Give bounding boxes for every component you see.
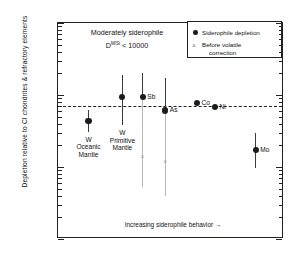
y-axis-major-tick [276, 95, 282, 96]
y-axis-minor-tick [58, 61, 62, 62]
data-label-ni: Ni [220, 103, 226, 110]
y-axis-minor-tick [279, 178, 283, 179]
y-axis-minor-tick [279, 61, 283, 62]
y-axis-minor-tick [279, 117, 283, 118]
annotation-d-superscript: M/Si [111, 41, 120, 46]
data-label-line: W [100, 129, 144, 137]
y-axis-minor-tick [279, 26, 283, 27]
y-axis-minor-tick [279, 111, 283, 112]
y-axis-minor-tick [279, 52, 283, 53]
y-axis-minor-tick [279, 196, 283, 197]
y-axis-minor-tick [58, 178, 62, 179]
y-axis-minor-tick [279, 102, 283, 103]
y-axis-minor-tick [58, 52, 62, 53]
data-label-co: Co [201, 99, 209, 106]
y-axis-minor-tick [58, 102, 62, 103]
data-point-ni[interactable] [212, 104, 218, 110]
y-axis-minor-tick [58, 183, 62, 184]
data-label-line: Mantle [100, 144, 144, 152]
data-label-line: Primitive [100, 137, 144, 145]
x-axis-caption-text: Increasing siderophile behavior → [125, 221, 222, 228]
y-axis-minor-tick [58, 196, 62, 197]
y-axis-minor-tick [58, 124, 62, 125]
data-point-mo[interactable] [253, 147, 259, 153]
y-axis-minor-tick [279, 39, 283, 40]
y-axis-minor-tick [58, 39, 62, 40]
y-axis-minor-tick [279, 124, 283, 125]
y-axis-minor-tick [279, 217, 283, 218]
annotation-line-2: DM/Si < 10000 [72, 38, 182, 51]
y-axis-major-tick [58, 167, 64, 168]
y-axis-minor-tick [279, 98, 283, 99]
y-axis-minor-tick [58, 133, 62, 134]
cross-marker-uncorrected[interactable]: × [163, 159, 167, 166]
y-axis-minor-tick [279, 189, 283, 190]
data-point-sb[interactable] [140, 94, 146, 100]
y-axis-minor-tick [279, 174, 283, 175]
annotation-d-value: < 10000 [120, 41, 148, 50]
y-axis-minor-tick [58, 45, 62, 46]
y-axis-minor-tick [279, 73, 283, 74]
y-axis-minor-tick [58, 98, 62, 99]
plot-area: Moderately siderophile DM/Si < 10000 Sid… [57, 22, 283, 238]
y-axis-minor-tick [58, 117, 62, 118]
y-axis-title: Depletion relative to CI chondrites & re… [21, 0, 28, 222]
legend: Siderophile depletion × Before volatile … [187, 21, 282, 58]
y-axis-minor-tick [58, 30, 62, 31]
y-axis-minor-tick [58, 111, 62, 112]
legend-label-siderophile-depletion: Siderophile depletion [202, 29, 260, 37]
y-axis-minor-tick [279, 34, 283, 35]
y-axis-major-tick [276, 239, 282, 240]
error-bar [122, 75, 123, 125]
y-axis-minor-tick [58, 174, 62, 175]
data-point-co[interactable] [194, 100, 200, 106]
legend-marker-filled-circle [193, 30, 198, 35]
y-axis-major-tick [58, 239, 64, 240]
y-axis-major-tick [276, 23, 282, 24]
y-axis-major-tick [58, 23, 64, 24]
y-axis-minor-tick [279, 30, 283, 31]
y-axis-minor-tick [279, 106, 283, 107]
y-axis-major-tick [276, 167, 282, 168]
y-axis-minor-tick [58, 205, 62, 206]
chart-annotation-title: Moderately siderophile DM/Si < 10000 [72, 27, 182, 51]
y-axis-minor-tick [58, 26, 62, 27]
error-bar-upper [165, 78, 166, 111]
y-axis-minor-tick [58, 106, 62, 107]
y-axis-minor-tick [279, 145, 283, 146]
data-point-as[interactable] [162, 107, 168, 113]
y-axis-minor-tick [58, 189, 62, 190]
y-axis-minor-tick [279, 183, 283, 184]
figure: Depletion relative to CI chondrites & re… [0, 0, 293, 262]
y-axis-minor-tick [58, 73, 62, 74]
y-axis-minor-tick [58, 34, 62, 35]
legend-label-before-volatile-correction-line2: correction [209, 49, 236, 57]
cross-marker-uncorrected[interactable]: × [141, 154, 145, 161]
data-point-w[interactable] [85, 118, 91, 124]
y-axis-minor-tick [58, 217, 62, 218]
data-point-w[interactable] [119, 94, 125, 100]
data-label-mo: Mo [260, 146, 269, 153]
y-axis-minor-tick [58, 145, 62, 146]
data-label-sb: Sb [147, 93, 155, 100]
y-axis-minor-tick [279, 170, 283, 171]
y-axis-minor-tick [58, 170, 62, 171]
y-axis-minor-tick [279, 205, 283, 206]
annotation-line-1: Moderately siderophile [72, 27, 182, 38]
y-axis-minor-tick [279, 133, 283, 134]
y-axis-major-tick [58, 95, 64, 96]
x-axis-caption: Increasing siderophile behavior → [118, 221, 228, 229]
y-axis-minor-tick [279, 45, 283, 46]
data-label-as: As [170, 106, 178, 113]
data-label-w: WPrimitiveMantle [100, 129, 144, 152]
legend-marker-cross: × [192, 43, 196, 49]
